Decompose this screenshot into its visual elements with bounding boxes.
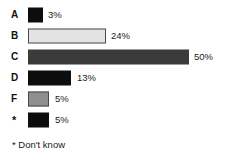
category-label: D [11, 73, 18, 83]
category-label: F [11, 94, 17, 104]
value-label-d: 13% [77, 73, 96, 83]
bar-row: D 13% [0, 69, 226, 87]
bar-row: B 24% [0, 27, 226, 45]
bar-d [28, 71, 71, 86]
category-label: B [11, 31, 18, 41]
bar-row: F 5% [0, 90, 226, 108]
bar-c [28, 50, 189, 65]
bar-row: C 50% [0, 48, 226, 66]
bar-dont-know [28, 113, 49, 128]
value-label-dont-know: 5% [55, 115, 69, 125]
bar-row: A 3% [0, 6, 226, 24]
value-label-a: 3% [48, 10, 62, 20]
value-label-b: 24% [111, 31, 130, 41]
category-label-dont-know: * [12, 115, 16, 126]
bar-a [28, 8, 43, 23]
footnote: * Don't know [12, 140, 65, 150]
category-label: C [11, 52, 18, 62]
category-label: A [11, 10, 18, 20]
bar-b [28, 29, 106, 44]
value-label-c: 50% [194, 52, 213, 62]
bar-chart: A 3% B 24% C 50% D 13% F 5% * 5% * Don't… [0, 0, 226, 157]
bar-f [28, 92, 49, 107]
bar-row: * 5% [0, 111, 226, 129]
value-label-f: 5% [55, 94, 69, 104]
